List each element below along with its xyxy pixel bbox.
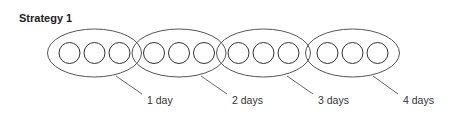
group-ellipse [132,29,226,77]
item-circle [367,43,388,64]
group-ellipse [48,29,142,77]
item-circle [228,43,249,64]
duration-label: 2 days [232,94,263,106]
duration-label: 1 day [147,94,173,106]
duration-label: 4 days [403,94,434,106]
strategy-diagram: 1 day2 days3 days4 days [0,0,456,117]
group-ellipse [306,29,400,77]
leader-line [373,76,398,94]
item-circle [253,43,274,64]
leader-line [116,76,142,94]
item-circle [84,43,105,64]
item-circle [194,43,215,64]
item-circle [59,43,80,64]
item-circle [342,43,363,64]
leader-line [287,76,313,94]
group-1: 1 day [48,29,174,106]
leader-line [201,76,227,94]
item-circle [317,43,338,64]
duration-label: 3 days [318,94,349,106]
item-circle [278,43,299,64]
item-circle [144,43,165,64]
group-ellipse [217,29,311,77]
item-circle [109,43,130,64]
item-circle [169,43,190,64]
